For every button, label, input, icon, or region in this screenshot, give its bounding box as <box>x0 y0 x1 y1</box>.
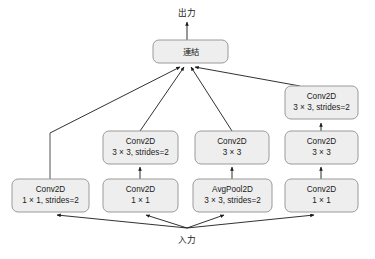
edge-b3-to-concat <box>191 67 232 131</box>
node-b3-pool-line1: AvgPool2D <box>212 185 253 194</box>
node-b4-conv1-line2: 1 × 1 <box>312 196 331 205</box>
edge-b1-to-concat <box>50 67 180 133</box>
node-b3-conv-line2: 3 × 3 <box>223 148 242 157</box>
node-b2-conv2[interactable]: Conv2D 3 × 3, strides=2 <box>103 131 178 164</box>
node-b4-conv1-line1: Conv2D <box>307 185 337 194</box>
node-b4-conv2[interactable]: Conv2D 3 × 3 <box>285 131 358 164</box>
input-label: 入力 <box>178 234 196 245</box>
node-b3-pool-line2: 3 × 3, strides=2 <box>204 196 261 205</box>
node-b4-conv2-line2: 3 × 3 <box>312 148 331 157</box>
node-b4-conv3-line1: Conv2D <box>307 92 337 101</box>
node-concat[interactable]: 連結 <box>153 40 228 63</box>
node-b2-conv2-line2: 3 × 3, strides=2 <box>112 148 169 157</box>
diagram-canvas: 出力 連結 Conv2D 3 × 3, strides=2 Conv2D 3 ×… <box>0 0 375 259</box>
node-b4-conv2-line1: Conv2D <box>307 137 337 146</box>
node-b4-conv3-line2: 3 × 3, strides=2 <box>293 103 350 112</box>
node-b3-pool[interactable]: AvgPool2D 3 × 3, strides=2 <box>193 179 272 212</box>
node-b1-conv[interactable]: Conv2D 1 × 1, strides=2 <box>12 179 89 212</box>
node-b2-conv1[interactable]: Conv2D 1 × 1 <box>103 179 178 212</box>
node-b2-conv2-line1: Conv2D <box>126 137 156 146</box>
node-b2-conv1-line1: Conv2D <box>126 185 156 194</box>
edge-b4-to-concat <box>195 67 300 86</box>
node-b3-conv[interactable]: Conv2D 3 × 3 <box>195 131 269 164</box>
node-b1-conv-line2: 1 × 1, strides=2 <box>22 196 79 205</box>
node-b1-conv-line1: Conv2D <box>36 185 66 194</box>
node-b4-conv1[interactable]: Conv2D 1 × 1 <box>285 179 358 212</box>
output-label: 出力 <box>178 7 196 18</box>
node-b3-conv-line1: Conv2D <box>217 137 247 146</box>
node-b4-conv3[interactable]: Conv2D 3 × 3, strides=2 <box>285 86 358 119</box>
node-concat-label: 連結 <box>183 47 199 57</box>
node-b2-conv1-line2: 1 × 1 <box>131 196 150 205</box>
input-fanout-edges <box>57 215 314 228</box>
network-diagram: 出力 連結 Conv2D 3 × 3, strides=2 Conv2D 3 ×… <box>0 0 375 259</box>
